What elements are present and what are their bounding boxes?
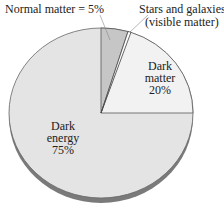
label-dark-energy-3: 75%	[43, 144, 83, 156]
label-stars-line2: (visible matter)	[145, 16, 219, 28]
label-stars-line1: Stars and galaxies	[139, 3, 224, 15]
label-normal-matter: Normal matter = 5%	[5, 3, 104, 15]
pie-chart	[0, 0, 224, 209]
label-dark-matter-3: 20%	[140, 84, 180, 96]
